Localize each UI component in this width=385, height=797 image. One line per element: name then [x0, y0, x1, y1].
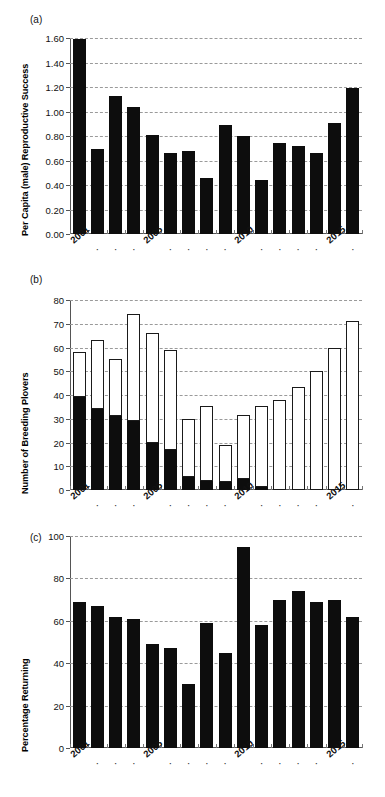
panel-b: (b) Number of Breeding Plovers 010203040…: [0, 268, 385, 530]
y-axis-tick-label: 20: [53, 700, 64, 711]
x-axis-tick-dot: ·: [278, 757, 282, 769]
bar-segment-black: [200, 481, 213, 491]
x-axis-tick-dot: ·: [187, 243, 191, 255]
panel-a-tag: (a): [30, 14, 42, 25]
bar-fill: [146, 135, 159, 234]
bar-2013: [292, 300, 305, 490]
bar-fill: [91, 149, 104, 234]
bar-2006: [164, 536, 177, 748]
y-axis-tick-label: 0.60: [46, 155, 65, 166]
x-axis-tick-dot: ·: [114, 499, 118, 511]
bar-2006: [164, 300, 177, 490]
panel-a-y-axis-label: Per Capita (male) Reproductive Success: [20, 64, 30, 236]
y-axis-tick-label: 1.60: [46, 33, 65, 44]
bar-segment-white: [182, 419, 195, 477]
x-axis-tick-dot: ·: [132, 499, 136, 511]
bar-2002: [91, 536, 104, 748]
bar-2015: [328, 300, 341, 490]
bar-segment-black: [109, 416, 122, 490]
y-axis-tick-label: 40: [53, 390, 64, 401]
bar-2007: [182, 536, 195, 748]
x-axis-tick-dot: ·: [351, 243, 355, 255]
bar-2014: [310, 536, 323, 748]
x-axis-tick-dot: ·: [315, 757, 319, 769]
bar-fill: [200, 178, 213, 234]
panel-c-tag: (c): [30, 532, 42, 543]
y-axis-tick-label: 80: [53, 573, 64, 584]
x-axis-tick: [362, 744, 363, 748]
bar-2016: [346, 38, 359, 234]
bar-2007: [182, 300, 195, 490]
bar-fill: [292, 146, 305, 234]
bar-2011: [255, 38, 268, 234]
x-axis-tick-dot: ·: [114, 243, 118, 255]
bar-fill: [146, 644, 159, 748]
x-axis-tick-dot: ·: [223, 499, 227, 511]
x-axis-tick-dot: ·: [169, 499, 173, 511]
y-axis-tick-label: 1.20: [46, 82, 65, 93]
bar-fill: [109, 617, 122, 748]
x-axis-tick-dot: ·: [205, 499, 209, 511]
x-axis-tick-dot: ·: [96, 243, 100, 255]
bar-2009: [219, 536, 232, 748]
y-axis-tick-label: 0.80: [46, 131, 65, 142]
bar-segment-white: [237, 415, 250, 479]
bar-segment-white: [164, 350, 177, 450]
bar-2015: [328, 536, 341, 748]
bar-fill: [273, 600, 286, 748]
bar-segment-white: [273, 400, 286, 490]
bar-fill: [346, 88, 359, 234]
bar-fill: [219, 653, 232, 748]
bar-fill: [255, 180, 268, 234]
x-axis-tick: [362, 230, 363, 234]
y-axis-tick-label: 1.40: [46, 57, 65, 68]
y-axis-tick-label: 80: [53, 295, 64, 306]
bar-segment-white: [292, 387, 305, 490]
x-axis-tick-dot: ·: [114, 757, 118, 769]
panel-a-plot-area: 0.000.200.400.600.801.001.201.401.60 200…: [70, 38, 362, 234]
bar-2003: [109, 38, 122, 234]
x-axis-tick-dot: ·: [132, 243, 136, 255]
bar-2008: [200, 300, 213, 490]
panel-b-x-tick-labels: 2001···2005····2010····2015·: [70, 490, 362, 530]
x-axis-tick-dot: ·: [260, 499, 264, 511]
x-axis-tick-dot: ·: [169, 243, 173, 255]
bar-2012: [273, 536, 286, 748]
bar-2008: [200, 38, 213, 234]
bar-2002: [91, 38, 104, 234]
bar-segment-white: [73, 352, 86, 397]
bar-fill: [164, 648, 177, 748]
panel-c-y-axis-label: Percentage Returning: [20, 659, 30, 752]
panel-b-bars: [70, 300, 362, 490]
bar-segment-white: [310, 371, 323, 490]
bar-segment-white: [328, 348, 341, 491]
y-axis-tick-label: 50: [53, 366, 64, 377]
y-axis-tick-label: 0.20: [46, 204, 65, 215]
bar-fill: [310, 153, 323, 234]
y-axis-tick-label: 40: [53, 658, 64, 669]
bar-2003: [109, 536, 122, 748]
x-axis-tick-dot: ·: [315, 499, 319, 511]
x-axis-tick-dot: ·: [351, 499, 355, 511]
bar-2011: [255, 300, 268, 490]
bar-fill: [346, 617, 359, 748]
bar-2016: [346, 536, 359, 748]
x-axis-tick-dot: ·: [296, 499, 300, 511]
bar-2001: [73, 300, 86, 490]
bar-2009: [219, 300, 232, 490]
bar-2009: [219, 38, 232, 234]
bar-fill: [310, 602, 323, 748]
bar-segment-black: [73, 397, 86, 490]
bar-segment-black: [219, 482, 232, 490]
y-axis-tick-label: 10: [53, 461, 64, 472]
bar-2014: [310, 38, 323, 234]
bar-segment-white: [200, 406, 213, 481]
x-axis-tick-dot: ·: [223, 243, 227, 255]
y-axis-tick-label: 0: [59, 485, 64, 496]
y-axis-tick-label: 30: [53, 413, 64, 424]
bar-2005: [146, 38, 159, 234]
y-axis-tick-label: 0.40: [46, 180, 65, 191]
panel-b-plot-area: 01020304050607080 2001···2005····2010···…: [70, 300, 362, 490]
bar-2011: [255, 536, 268, 748]
bar-2008: [200, 536, 213, 748]
